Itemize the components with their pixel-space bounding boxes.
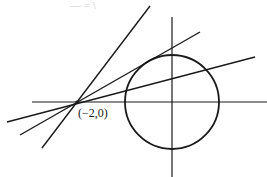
- point-label: (−2,0): [78, 106, 108, 120]
- upper-tangent-line: [20, 32, 200, 135]
- caption-fragment: — = \: [69, 0, 97, 11]
- steep-line: [42, 6, 150, 148]
- external-point: [75, 100, 78, 103]
- diagram-canvas: — = \ (−2,0): [0, 0, 267, 177]
